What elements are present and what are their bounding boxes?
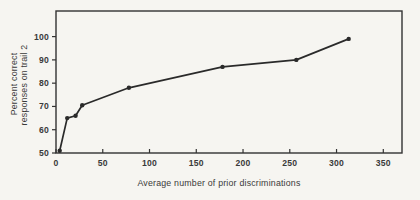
y-axis: 5060708090100 (34, 32, 56, 158)
x-axis: 050100150200250300350 (54, 149, 391, 168)
x-tick-label: 300 (329, 158, 344, 168)
y-tick-label: 60 (39, 125, 49, 135)
y-tick-label: 70 (39, 101, 49, 111)
x-tick-label: 150 (189, 158, 204, 168)
data-point (127, 86, 131, 90)
line-chart: 5060708090100 050100150200250300350 Aver… (0, 0, 420, 200)
y-tick-label: 80 (39, 78, 49, 88)
scanned-figure: 5060708090100 050100150200250300350 Aver… (0, 0, 420, 200)
x-tick-label: 200 (236, 158, 251, 168)
x-tick-label: 50 (98, 158, 108, 168)
data-point (73, 114, 77, 118)
data-point (58, 149, 62, 153)
y-tick-label: 90 (39, 55, 49, 65)
series-line (60, 39, 349, 151)
y-tick-label: 50 (39, 148, 49, 158)
plot-frame (56, 11, 402, 153)
data-point (220, 65, 224, 69)
data-point (80, 103, 84, 107)
plot-border (56, 11, 402, 153)
x-tick-label: 350 (376, 158, 391, 168)
y-tick-label: 100 (34, 32, 49, 42)
x-axis-title: Average number of prior discriminations (137, 178, 301, 188)
data-series (58, 37, 351, 153)
y-axis-title-line1: Percent correct (9, 52, 19, 115)
data-point (294, 58, 298, 62)
x-tick-label: 250 (282, 158, 297, 168)
data-point (347, 37, 351, 41)
data-point (65, 116, 69, 120)
x-tick-label: 0 (54, 158, 59, 168)
y-axis-title-line2: responses on trail 2 (19, 45, 29, 126)
x-tick-label: 100 (142, 158, 157, 168)
